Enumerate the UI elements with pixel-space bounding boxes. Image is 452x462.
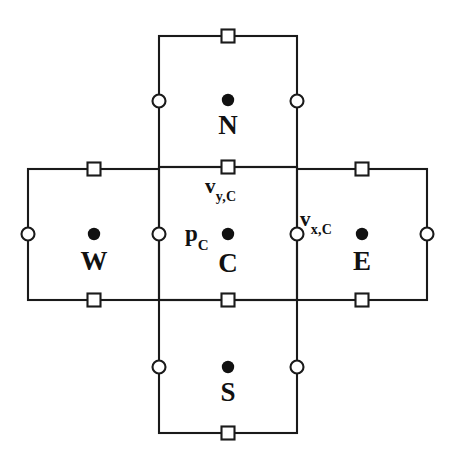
circle-marker-north-right-face [291,95,304,108]
variable-label-v-x-c: vx,C [300,209,332,234]
square-marker-west-bottom-face [88,294,101,307]
cell-label-center: C [218,250,238,277]
square-marker-center-bottom-face [222,294,235,307]
circle-marker-south-left-face [153,361,166,374]
square-marker-south-bottom-face [222,427,235,440]
diagram-canvas: N W C E S vy,C vx,C pC [0,0,452,462]
square-marker-west-top-face [88,163,101,176]
circle-marker-center-left-face [153,228,166,241]
cell-label-south: S [220,379,235,406]
circle-marker-west-left-face [22,228,35,241]
variable-label-p-c: pC [185,222,209,250]
square-marker-east-bottom-face [356,294,369,307]
variable-label-v-y-c: vy,C [205,176,236,201]
center-dot-west [88,228,100,240]
variable-base-v-x: v [300,207,311,231]
variable-sub-p: C [198,237,209,253]
center-dot-east [356,228,368,240]
center-dot-north [222,94,234,106]
center-dot-south [222,361,234,373]
circle-marker-east-right-face [421,228,434,241]
cell-label-east: E [353,248,371,275]
cell-label-north: N [218,112,238,139]
variable-base-v-y: v [205,174,216,198]
circle-marker-north-left-face [153,95,166,108]
cell-label-west: W [81,248,108,275]
square-marker-north-top-face [222,30,235,43]
variable-sub-v-y: y,C [216,189,237,204]
square-marker-east-top-face [356,163,369,176]
variable-sub-v-x: x,C [311,222,333,237]
variable-base-p: p [185,221,198,246]
square-marker-north-bottom-face [222,161,235,174]
circle-marker-south-right-face [291,361,304,374]
center-dot-center [222,228,234,240]
